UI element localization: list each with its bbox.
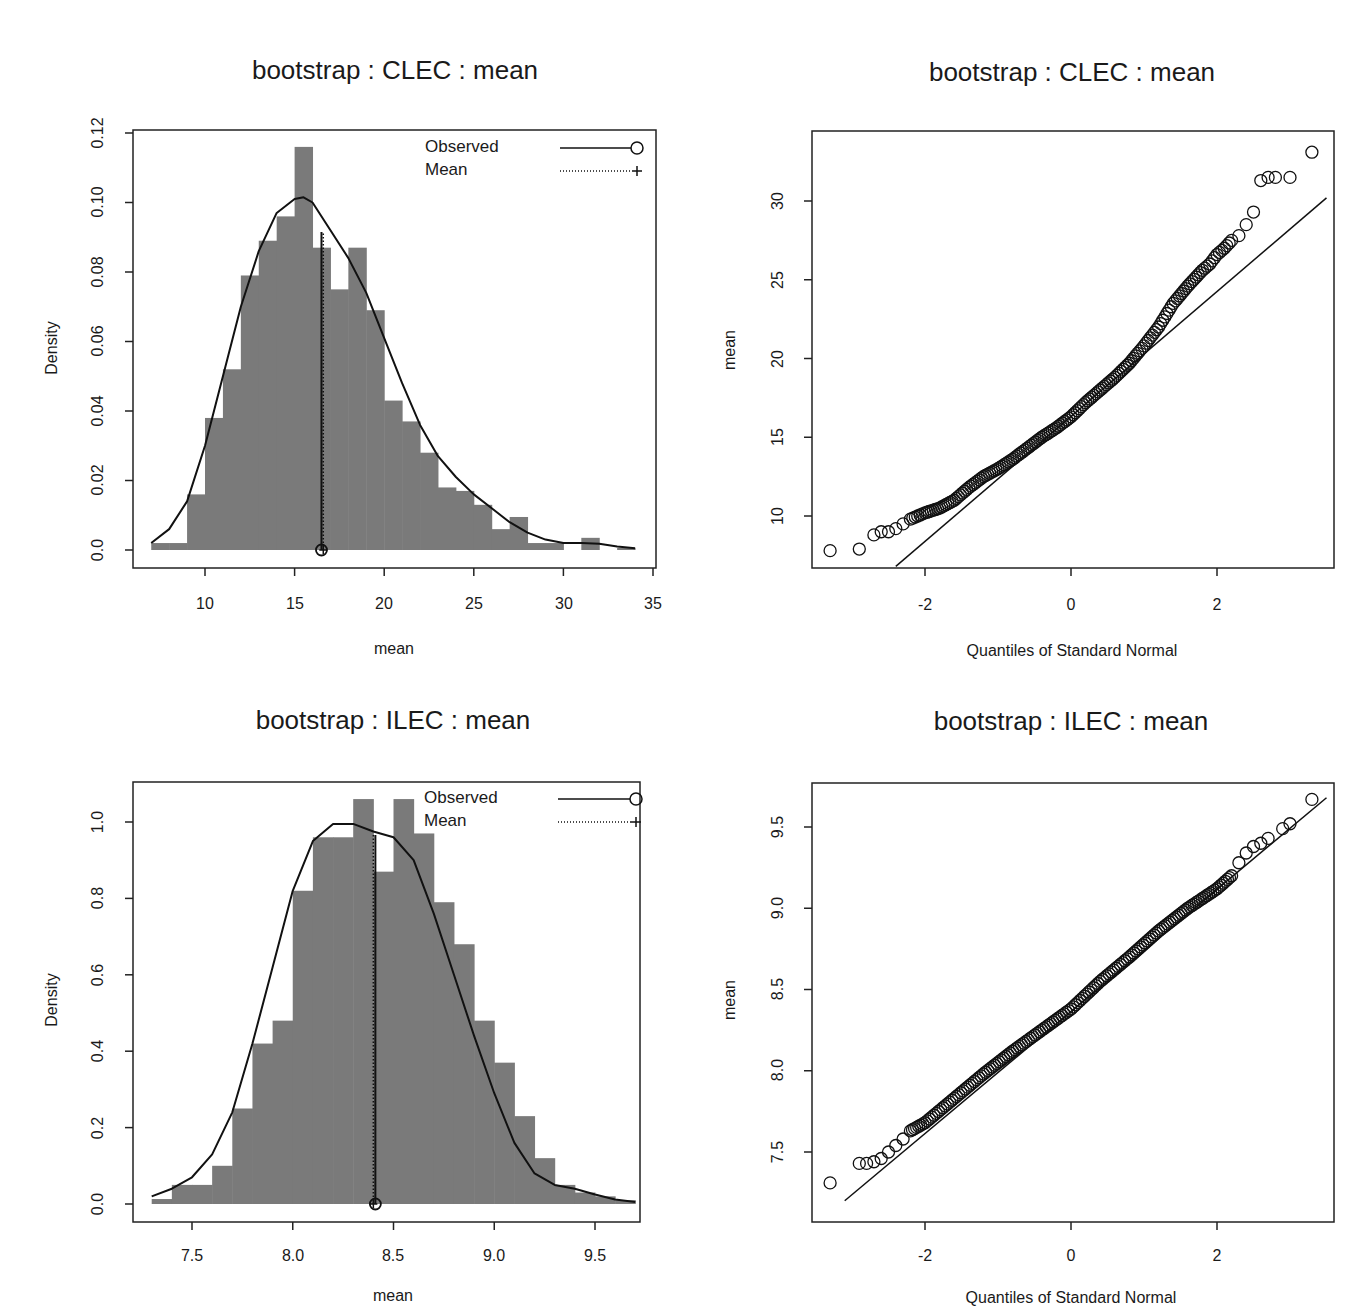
x-tick: 2 (1213, 1247, 1222, 1265)
qq-point (875, 1153, 887, 1165)
y-tick: 8.0 (769, 1059, 787, 1081)
qq-point (868, 1156, 880, 1168)
qq-point (890, 1140, 902, 1152)
x-tick: -2 (918, 1247, 932, 1265)
qq-point (1240, 847, 1252, 859)
y-axis-label: mean (721, 980, 739, 1020)
qq-point (824, 1177, 836, 1189)
y-tick: 9.5 (769, 816, 787, 838)
qq-point (1306, 793, 1318, 805)
panel-qq-ilec: bootstrap : ILEC : mean mean Quantiles o… (0, 0, 1370, 1312)
y-tick: 9.0 (769, 897, 787, 919)
y-tick: 8.5 (769, 978, 787, 1000)
qq-point (883, 1146, 895, 1158)
reference-line (845, 798, 1327, 1201)
qq-plot (0, 0, 1370, 1312)
qq-point (853, 1157, 865, 1169)
plot-frame (812, 783, 1334, 1222)
y-tick: 7.5 (769, 1141, 787, 1163)
x-axis-label: Quantiles of Standard Normal (966, 1289, 1177, 1307)
qq-point (1248, 841, 1260, 853)
qq-point (897, 1133, 909, 1145)
x-tick: 0 (1067, 1247, 1076, 1265)
